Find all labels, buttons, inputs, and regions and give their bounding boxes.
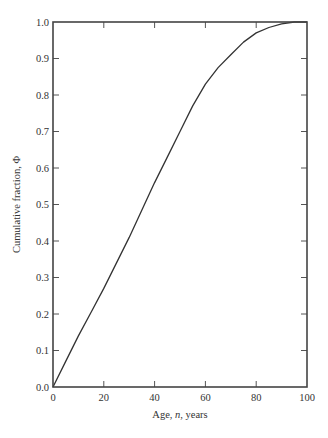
plot-frame	[53, 22, 307, 387]
x-tick-label: 100	[299, 392, 315, 403]
y-tick-label: 0.7	[36, 126, 49, 137]
cumulative-fraction-chart: 0204060801000.00.10.20.30.40.50.60.70.80…	[0, 0, 328, 438]
y-tick-label: 0.2	[36, 309, 49, 320]
x-axis-title: Age, n, years	[152, 409, 207, 420]
data-series-line	[53, 22, 307, 387]
x-tick-label: 20	[99, 392, 110, 403]
y-tick-label: 0.5	[36, 199, 49, 210]
y-tick-label: 0.6	[36, 163, 49, 174]
y-tick-label: 1.0	[36, 17, 49, 28]
tick-labels-layer: 0204060801000.00.10.20.30.40.50.60.70.80…	[36, 17, 315, 404]
y-tick-label: 0.8	[36, 90, 49, 101]
y-axis-title: Cumulative fraction, Φ	[11, 156, 22, 254]
x-axis-title-part: , years	[180, 409, 207, 420]
x-axis-title-part: Age,	[152, 409, 175, 420]
y-tick-label: 0.0	[36, 382, 49, 393]
x-tick-label: 0	[50, 392, 55, 403]
y-tick-label: 0.9	[36, 53, 49, 64]
y-tick-label: 0.4	[36, 236, 50, 247]
x-tick-label: 80	[251, 392, 262, 403]
x-tick-label: 60	[200, 392, 211, 403]
y-tick-label: 0.1	[36, 345, 49, 356]
ticks-layer	[53, 22, 307, 387]
y-tick-label: 0.3	[36, 272, 49, 283]
x-tick-label: 40	[149, 392, 160, 403]
